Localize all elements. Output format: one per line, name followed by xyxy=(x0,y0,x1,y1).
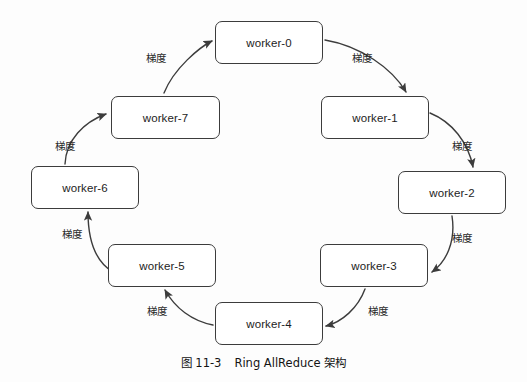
node-label: worker-0 xyxy=(246,37,292,49)
node-label: worker-5 xyxy=(139,260,185,272)
label-edge-w5-w6: 梯度 xyxy=(62,226,82,241)
node-label: worker-7 xyxy=(143,112,189,124)
label-edge-w3-w4: 梯度 xyxy=(368,303,388,318)
node-label: worker-6 xyxy=(62,182,108,194)
node-worker-3[interactable]: worker-3 xyxy=(320,244,428,287)
figure-page: worker-0worker-1worker-2worker-3worker-4… xyxy=(0,0,527,382)
edge-w7-w0 xyxy=(164,41,212,93)
node-worker-0[interactable]: worker-0 xyxy=(215,21,323,64)
node-worker-2[interactable]: worker-2 xyxy=(398,171,506,214)
node-worker-6[interactable]: worker-6 xyxy=(31,166,139,209)
label-edge-w6-w7: 梯度 xyxy=(55,138,75,153)
edge-w2-w3 xyxy=(432,216,453,272)
caption-title: Ring AllReduce 架构 xyxy=(234,356,346,370)
node-label: worker-1 xyxy=(352,112,398,124)
node-label: worker-4 xyxy=(246,318,292,330)
label-edge-w7-w0: 梯度 xyxy=(146,50,166,65)
node-worker-5[interactable]: worker-5 xyxy=(108,244,216,287)
edge-w4-w5 xyxy=(165,290,213,325)
label-edge-w0-w1: 梯度 xyxy=(352,50,372,65)
label-edge-w2-w3: 梯度 xyxy=(452,230,472,245)
edge-w3-w4 xyxy=(326,289,365,326)
caption-figure-number: 图 11-3 xyxy=(181,356,222,370)
figure-caption: 图 11-3Ring AllReduce 架构 xyxy=(0,354,527,370)
node-label: worker-2 xyxy=(429,187,475,199)
edge-w0-w1 xyxy=(325,40,406,92)
node-worker-1[interactable]: worker-1 xyxy=(321,96,429,139)
label-edge-w4-w5: 梯度 xyxy=(147,303,167,318)
node-worker-4[interactable]: worker-4 xyxy=(215,302,323,345)
node-worker-7[interactable]: worker-7 xyxy=(111,96,220,139)
node-label: worker-3 xyxy=(351,260,397,272)
label-edge-w1-w2: 梯度 xyxy=(452,138,472,153)
